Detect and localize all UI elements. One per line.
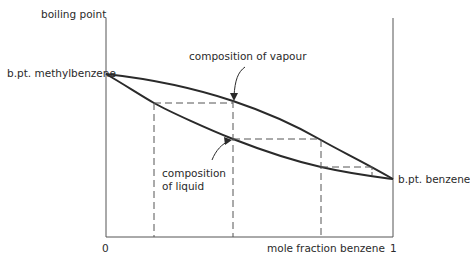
vapour-arrow-icon (234, 67, 245, 96)
x-tick-0: 0 (102, 242, 109, 254)
liquid-curve-label-line1: composition (162, 167, 226, 179)
y-axis-label: boiling point (41, 8, 106, 20)
x-tick-1: 1 (390, 242, 397, 254)
right-point-label: b.pt. benzene (398, 173, 470, 185)
x-axis-label: mole fraction benzene (267, 242, 385, 254)
left-point-label: b.pt. methylbenzene (7, 67, 116, 79)
vapour-curve-label: composition of vapour (189, 50, 307, 62)
liquid-curve-label-line2: of liquid (162, 180, 204, 192)
liquid-curve (106, 74, 393, 179)
vapour-curve (106, 74, 393, 179)
